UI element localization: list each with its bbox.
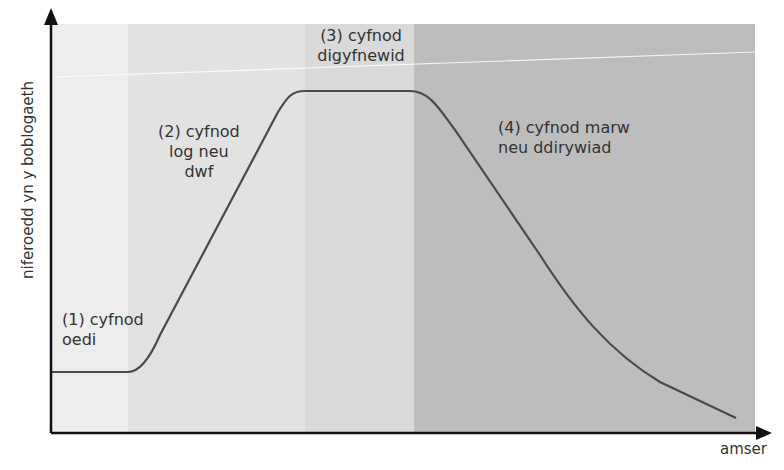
y-axis-arrow-icon — [44, 8, 58, 25]
population-curve — [51, 91, 736, 418]
y-axis-label: niferoedd yn y boblogaeth — [19, 81, 37, 279]
phase-3-label: (3) cyfnod digyfnewid — [306, 26, 416, 66]
chart-overlay — [0, 0, 784, 470]
phase-4-label: (4) cyfnod marw neu ddirywiad — [498, 118, 630, 158]
phase-2-label: (2) cyfnod log neu dwf — [158, 122, 240, 182]
x-axis-label: amser — [720, 440, 767, 458]
x-axis-arrow-icon — [756, 426, 772, 440]
phase-1-label: (1) cyfnod oedi — [62, 310, 144, 350]
